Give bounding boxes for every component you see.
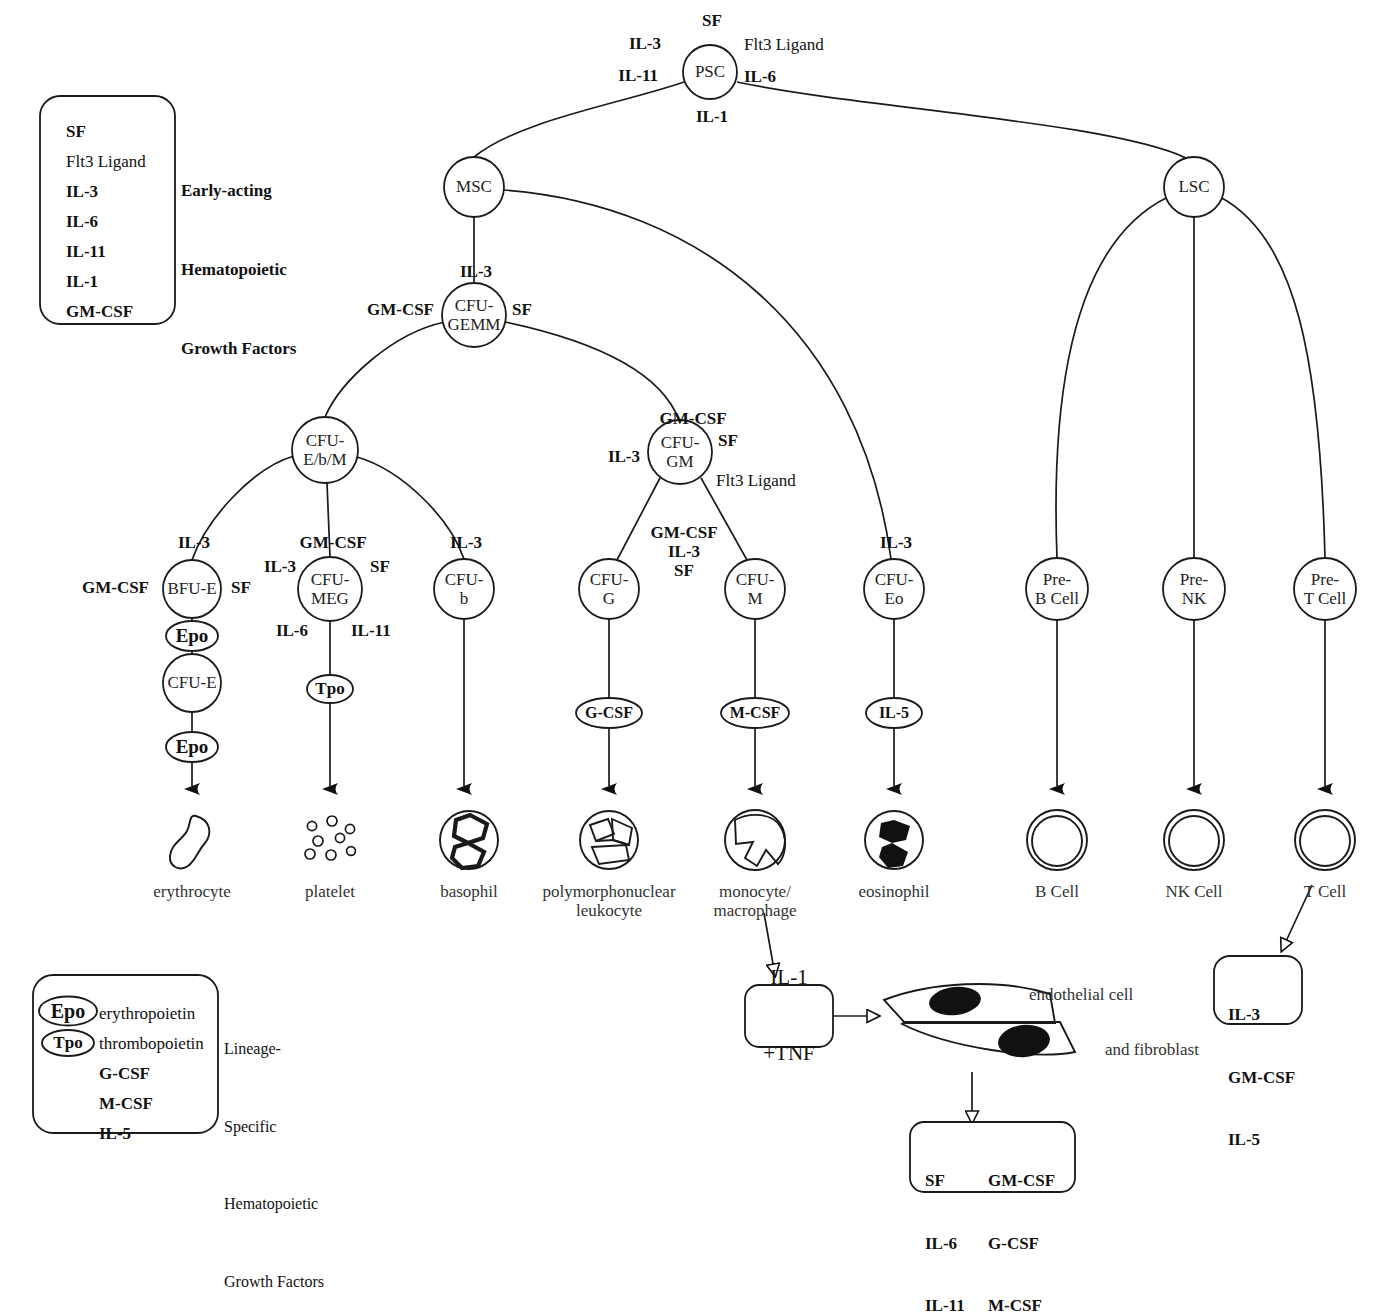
tcell-factor-label: IL-3 GM-CSF IL-5 (1228, 964, 1295, 1192)
node-label-line: M (712, 589, 798, 608)
legend-early-box (40, 96, 175, 324)
node-label-line: b (421, 589, 507, 608)
fibroblast-label: and fibroblast (1105, 1040, 1199, 1059)
factor-label-flt3-ligand-12: Flt3 Ligand (716, 471, 796, 490)
legend-lineage-badge-epo: Epo (51, 1000, 85, 1022)
edge-psc-msc (474, 82, 684, 157)
factor-label-sf-15: SF (231, 578, 251, 597)
node-label-line: CFU- (851, 570, 937, 589)
node-label-line: CFU- (285, 570, 375, 589)
legend-lineage-item-thrombopoietin: thrombopoietin (99, 1030, 204, 1058)
node-label-line: Pre- (1013, 570, 1101, 589)
edge-psc-lsc (737, 82, 1186, 158)
factor-label-il-3-22: IL-3 (880, 533, 912, 552)
factor-label-il-11-20: IL-11 (351, 621, 391, 640)
legend-lineage-item-m-csf: M-CSF (99, 1090, 153, 1118)
node-label-pre_t: Pre-T Cell (1281, 570, 1369, 608)
node-label-cfu_e: CFU-E (150, 673, 234, 692)
erythrocyte-glyph (170, 816, 209, 869)
node-label-cfu_gemm: CFU-GEMM (429, 296, 519, 334)
edge-cfuebm-cfub (357, 457, 464, 559)
node-label-line: CFU- (635, 433, 725, 452)
growth-badge-label-1: Epo (176, 736, 209, 757)
legend-early-item-il-6: IL-6 (66, 208, 98, 236)
node-label-line: G (566, 589, 652, 608)
legend-early-desc-line-2: Hematopoietic (181, 257, 296, 283)
stacked-factor-line-1: IL-3 (650, 542, 717, 561)
node-label-line: CFU- (566, 570, 652, 589)
stacked-factor-line-2: SF (650, 562, 717, 581)
factor-label-flt3-ligand-2: Flt3 Ligand (744, 35, 824, 54)
edge-lsc-pret (1220, 197, 1325, 558)
stroma-output-col1: SF IL-6 IL-11 (925, 1130, 965, 1315)
terminal-cell-label-lymphocyte: T Cell (1225, 882, 1375, 901)
factor-label-sf-11: SF (718, 431, 738, 450)
legend-early-item-il-1: IL-1 (66, 268, 98, 296)
legend-lineage-desc-line-2: Specific (224, 1114, 324, 1140)
node-label-line: CFU-E (150, 673, 234, 692)
node-label-line: GM (635, 452, 725, 471)
node-label-line: T Cell (1281, 589, 1369, 608)
edge-msc-cfueo (504, 190, 891, 559)
factor-label-il-3-13: IL-3 (178, 533, 210, 552)
edge-cfugemm-cfuebm (325, 322, 445, 417)
stroma-out-c1-l1: SF (925, 1171, 965, 1192)
stroma-out-c2-l1: GM-CSF (988, 1171, 1055, 1192)
factor-label-il-6-19: IL-6 (0, 621, 308, 640)
node-label-line: CFU- (429, 296, 519, 315)
factor-label-gm-csf-16: GM-CSF (299, 533, 366, 552)
node-label-line: CFU- (712, 570, 798, 589)
node-label-pre_nk: Pre-NK (1150, 570, 1238, 608)
legend-lineage-desc-line-1: Lineage- (224, 1036, 324, 1062)
legend-early-item-il-11: IL-11 (66, 238, 106, 266)
legend-lineage-desc-line-4: Growth Factors (224, 1269, 324, 1295)
il1-tnf-line-2: +TNF (763, 1041, 815, 1066)
factor-label-gm-csf-14: GM-CSF (0, 578, 149, 597)
node-label-line: Pre- (1150, 570, 1238, 589)
node-circles (163, 45, 1356, 712)
legend-early-item-gm-csf: GM-CSF (66, 298, 133, 326)
node-label-pre_b: Pre-B Cell (1013, 570, 1101, 608)
node-label-cfu_meg: CFU-MEG (285, 570, 375, 608)
node-label-line: PSC (670, 62, 750, 81)
eosinophil-glyph (865, 811, 923, 869)
legend-lineage-description: Lineage- Specific Hematopoietic Growth F… (224, 984, 324, 1315)
legend-lineage-item-erythropoietin: erythropoietin (99, 1000, 195, 1028)
terminal-cell-label-line: macrophage (655, 901, 855, 920)
legend-lineage-item-g-csf: G-CSF (99, 1060, 150, 1088)
factor-label-il-11-3: IL-11 (0, 66, 658, 85)
stroma-output-col2: GM-CSF G-CSF M-CSF (988, 1130, 1055, 1315)
terminal-cell-label-line: T Cell (1225, 882, 1375, 901)
legend-early-desc-line-1: Early-acting (181, 178, 296, 204)
factor-label-il-3-21: IL-3 (450, 533, 482, 552)
lymphocyte-glyph-bcell (1027, 810, 1087, 870)
growth-badge-label-2: Tpo (315, 679, 344, 698)
node-label-line: Eo (851, 589, 937, 608)
node-label-cfu_gm: CFU-GM (635, 433, 725, 471)
node-label-line: MSC (431, 177, 517, 196)
node-label-cfu_eo: CFU-Eo (851, 570, 937, 608)
legend-lineage-desc-line-3: Hematopoietic (224, 1191, 324, 1217)
node-label-line: CFU- (421, 570, 507, 589)
legend-lineage-badge-tpo: Tpo (53, 1033, 82, 1052)
lymphocyte-glyph-tcell (1295, 810, 1355, 870)
node-label-msc: MSC (431, 177, 517, 196)
stacked-factor-line-0: GM-CSF (650, 523, 717, 542)
legend-early-desc-line-3: Growth Factors (181, 336, 296, 362)
factor-label-il-3-1: IL-3 (0, 34, 661, 53)
node-label-cfu_g: CFU-G (566, 570, 652, 608)
stroma-out-c2-l3: M-CSF (988, 1296, 1055, 1315)
node-label-line: B Cell (1013, 589, 1101, 608)
node-label-line: LSC (1151, 177, 1237, 196)
node-label-line: BFU-E (150, 579, 234, 598)
factor-label-gm-csf-9: GM-CSF (659, 409, 726, 428)
legend-early-item-sf: SF (66, 118, 86, 146)
monocyte-glyph (725, 810, 785, 870)
factor-label-sf-18: SF (370, 557, 390, 576)
edge-lsc-preb (1056, 197, 1168, 558)
legend-lineage-item-il-5: IL-5 (99, 1120, 131, 1148)
legend-early-item-flt3-ligand: Flt3 Ligand (66, 148, 146, 176)
node-label-psc: PSC (670, 62, 750, 81)
factor-label-il-3-6: IL-3 (460, 262, 492, 281)
